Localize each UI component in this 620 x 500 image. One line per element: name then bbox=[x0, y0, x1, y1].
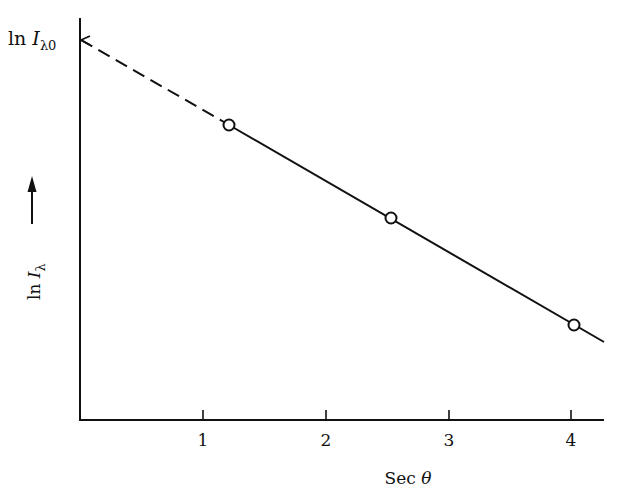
extrapolation-dashed-line bbox=[81, 40, 224, 122]
x-tick-label-4: 4 bbox=[566, 430, 577, 450]
intercept-ln: ln bbox=[8, 27, 32, 49]
data-point-3 bbox=[569, 320, 580, 331]
chart-canvas: 1 2 3 4 Sec θ ln Iλ ln Iλ0 bbox=[0, 0, 620, 500]
axes bbox=[79, 18, 604, 421]
x-ticks: 1 2 3 4 bbox=[198, 410, 577, 450]
svg-text:ln Iλ: ln Iλ bbox=[24, 263, 48, 300]
y-axis-arrow-icon bbox=[28, 176, 37, 224]
theta-symbol: θ bbox=[421, 468, 431, 488]
y-axis-title-lambda: λ bbox=[33, 263, 48, 271]
y-axis-title: ln Iλ bbox=[24, 263, 48, 300]
x-tick-label-2: 2 bbox=[321, 430, 332, 450]
intercept-label: ln Iλ0 bbox=[8, 27, 56, 53]
x-axis-title: Sec θ bbox=[385, 468, 432, 488]
y-axis-title-ln: ln bbox=[24, 278, 44, 300]
x-axis-title-text: Sec bbox=[385, 468, 422, 488]
x-tick-label-3: 3 bbox=[444, 430, 455, 450]
x-tick-label-1: 1 bbox=[198, 430, 209, 450]
data-point-1 bbox=[224, 120, 235, 131]
fit-line bbox=[229, 125, 604, 342]
intercept-sub: λ0 bbox=[40, 38, 57, 53]
data-point-2 bbox=[386, 213, 397, 224]
